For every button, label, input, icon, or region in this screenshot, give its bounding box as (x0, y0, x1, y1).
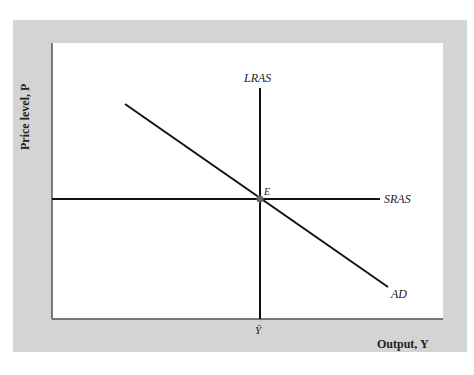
ad-line (125, 104, 388, 287)
y-axis-label: Price level, P (14, 40, 34, 150)
sras-label: SRAS (384, 192, 411, 207)
e-label: E (264, 186, 270, 197)
ybar-label: Ȳ (255, 324, 261, 336)
x-axis-label: Output, Y (377, 337, 429, 352)
chart-lines (0, 0, 474, 375)
equilibrium-point (257, 196, 264, 203)
ad-label: AD (391, 287, 407, 302)
lras-label: LRAS (244, 71, 271, 86)
